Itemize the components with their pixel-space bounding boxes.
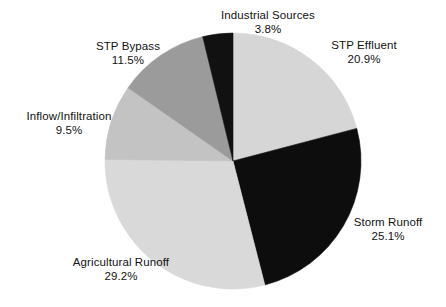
pie-label-storm-runoff-name: Storm Runoff [334,216,442,230]
pie-label-stp-bypass-value: 11.5% [70,54,186,68]
pie-label-stp-effluent-name: STP Effluent [304,39,424,53]
pie-label-storm-runoff: Storm Runoff 25.1% [334,216,442,243]
pie-label-stp-effluent-value: 20.9% [304,53,424,67]
pie-label-inflow-infiltration: Inflow/Infiltration 9.5% [6,110,132,137]
page-bottom-edge [0,302,446,307]
pie-label-stp-bypass-name: STP Bypass [70,40,186,54]
pie-slice-group [105,33,361,289]
pie-label-storm-runoff-value: 25.1% [334,230,442,244]
pie-chart-figure: Industrial Sources 3.8% STP Effluent 20.… [0,0,446,307]
pie-label-agricultural-runoff-value: 29.2% [48,270,194,284]
pie-label-stp-bypass: STP Bypass 11.5% [70,40,186,67]
pie-label-stp-effluent: STP Effluent 20.9% [304,39,424,66]
pie-label-inflow-infiltration-value: 9.5% [6,124,132,138]
pie-label-industrial-sources: Industrial Sources 3.8% [202,9,334,36]
pie-label-agricultural-runoff: Agricultural Runoff 29.2% [48,256,194,283]
pie-label-inflow-infiltration-name: Inflow/Infiltration [6,110,132,124]
pie-label-industrial-sources-name: Industrial Sources [202,9,334,23]
pie-label-industrial-sources-value: 3.8% [202,23,334,37]
pie-label-agricultural-runoff-name: Agricultural Runoff [48,256,194,270]
